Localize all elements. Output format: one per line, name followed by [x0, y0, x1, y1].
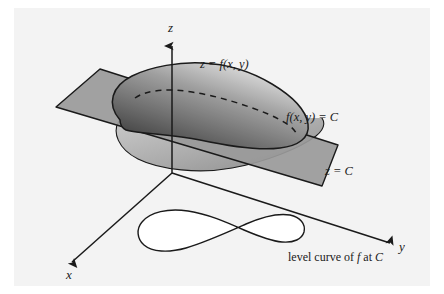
caption-lead: level curve of — [288, 250, 357, 264]
caption-mid: at — [360, 250, 375, 264]
projected-level-curve — [138, 210, 304, 251]
y-axis-label: y — [399, 240, 405, 253]
z-axis-label: z — [168, 21, 173, 34]
plane-equation-label: z = C — [325, 165, 353, 178]
level-curve-caption: level curve of f at C — [288, 251, 383, 263]
figure-container: z x y z = f(x, y) f(x, y) = C z = C leve… — [0, 0, 444, 294]
intersection-equation-label: f(x, y) = C — [286, 111, 338, 124]
caption-constant-symbol: C — [375, 250, 383, 264]
surface-equation-label: z = f(x, y) — [200, 58, 249, 71]
x-axis-label: x — [66, 268, 72, 281]
